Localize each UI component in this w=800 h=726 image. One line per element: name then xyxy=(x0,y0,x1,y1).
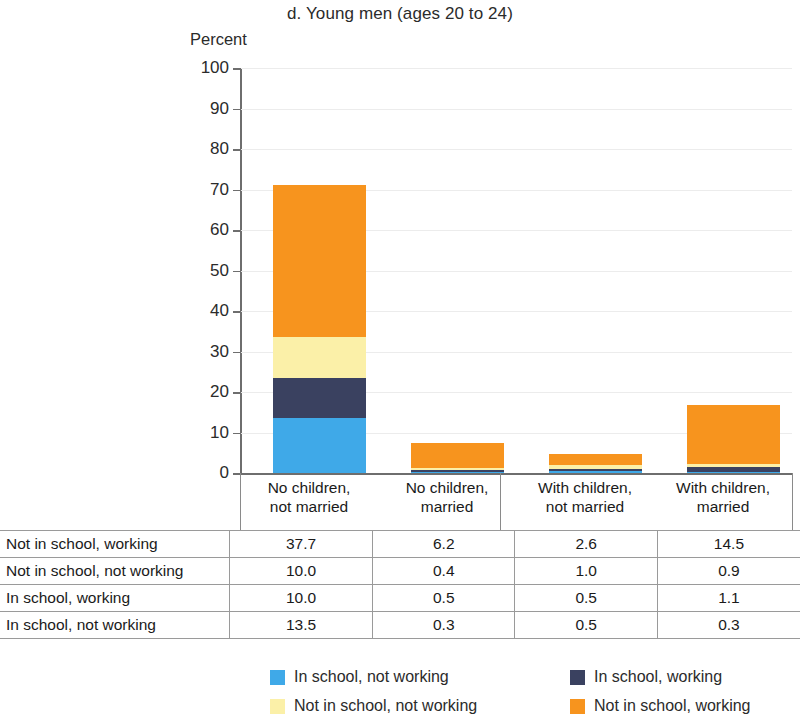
bar-stack[interactable] xyxy=(687,405,780,473)
gridline-90 xyxy=(240,109,792,110)
table-row-label: In school, working xyxy=(0,585,230,612)
y-tick-label: 0 xyxy=(220,463,229,483)
x-category-label-line: No children, xyxy=(378,478,516,497)
table-cell: 1.0 xyxy=(515,558,657,585)
bar-stack[interactable] xyxy=(273,185,366,473)
bar-segment[interactable] xyxy=(549,465,642,469)
y-tick-mark xyxy=(233,230,241,232)
table-row-label: Not in school, working xyxy=(0,531,230,558)
x-category-label: With children,married xyxy=(654,478,792,516)
x-category-label-line: married xyxy=(654,497,792,516)
table-cell: 0.4 xyxy=(373,558,515,585)
y-tick-mark xyxy=(233,433,241,435)
bar-segment[interactable] xyxy=(273,185,366,338)
bar-segment[interactable] xyxy=(687,472,780,473)
y-tick-label: 60 xyxy=(210,220,229,240)
legend-label: Not in school, not working xyxy=(294,697,477,715)
y-tick-label: 10 xyxy=(210,423,229,443)
x-category-label-line: No children, xyxy=(240,478,378,497)
legend-item[interactable]: In school, working xyxy=(570,668,722,686)
chart-figure: d. Young men (ages 20 to 24) Percent 010… xyxy=(0,0,800,726)
table-cell: 10.0 xyxy=(230,558,373,585)
y-tick-label: 30 xyxy=(210,342,229,362)
bar-segment[interactable] xyxy=(411,470,504,472)
x-category-label: No children,married xyxy=(378,478,516,516)
legend-label: In school, working xyxy=(594,668,722,686)
y-tick-label: 40 xyxy=(210,301,229,321)
x-axis-category-labels: No children,not marriedNo children,marri… xyxy=(240,478,792,530)
legend-swatch-icon xyxy=(570,670,585,685)
bar-segment[interactable] xyxy=(687,405,780,464)
table-row: Not in school, not working10.00.41.00.9 xyxy=(0,558,800,585)
plot-area: 0102030405060708090100 xyxy=(240,68,792,473)
category-separator xyxy=(792,473,793,530)
page-title: d. Young men (ages 20 to 24) xyxy=(0,4,800,24)
table-cell: 37.7 xyxy=(230,531,373,558)
y-axis-label: Percent xyxy=(190,30,247,49)
y-tick-mark xyxy=(233,68,241,70)
y-tick-mark xyxy=(233,392,241,394)
x-category-label-line: married xyxy=(378,497,516,516)
table-cell: 10.0 xyxy=(230,585,373,612)
bar-segment[interactable] xyxy=(687,464,780,468)
y-tick-label: 80 xyxy=(210,139,229,159)
x-category-label: With children,not married xyxy=(516,478,654,516)
legend-swatch-icon xyxy=(270,699,285,714)
bar-segment[interactable] xyxy=(273,418,366,473)
legend-swatch-icon xyxy=(270,670,285,685)
legend-item[interactable]: In school, not working xyxy=(270,668,449,686)
bar-segment[interactable] xyxy=(273,378,366,419)
table-row-label: Not in school, not working xyxy=(0,558,230,585)
legend-swatch-icon xyxy=(570,699,585,714)
table-row: In school, working10.00.50.51.1 xyxy=(0,585,800,612)
y-tick-mark xyxy=(233,352,241,354)
y-tick-mark xyxy=(233,271,241,273)
table-cell: 13.5 xyxy=(230,612,373,639)
bar-segment[interactable] xyxy=(411,443,504,468)
table-cell: 2.6 xyxy=(515,531,657,558)
table-cell: 6.2 xyxy=(373,531,515,558)
bar-segment[interactable] xyxy=(411,472,504,473)
y-tick-mark xyxy=(233,311,241,313)
chart-legend: In school, not workingIn school, working… xyxy=(240,668,792,726)
table-cell: 1.1 xyxy=(657,585,800,612)
table-cell: 0.3 xyxy=(373,612,515,639)
data-table: Not in school, working37.76.22.614.5Not … xyxy=(0,530,800,639)
table-cell: 0.5 xyxy=(515,612,657,639)
table-row: Not in school, working37.76.22.614.5 xyxy=(0,531,800,558)
table-cell: 0.3 xyxy=(657,612,800,639)
gridline-100 xyxy=(240,68,792,69)
bar-segment[interactable] xyxy=(273,337,366,378)
bar-segment[interactable] xyxy=(687,467,780,471)
y-tick-label: 100 xyxy=(201,58,229,78)
y-tick-label: 90 xyxy=(210,99,229,119)
y-tick-mark xyxy=(233,109,241,111)
table-cell: 0.5 xyxy=(373,585,515,612)
x-category-label-line: With children, xyxy=(516,478,654,497)
legend-item[interactable]: Not in school, not working xyxy=(270,697,477,715)
x-category-label: No children,not married xyxy=(240,478,378,516)
y-tick-mark xyxy=(233,190,241,192)
y-tick-label: 70 xyxy=(210,180,229,200)
legend-item[interactable]: Not in school, working xyxy=(570,697,751,715)
table-cell: 0.5 xyxy=(515,585,657,612)
bar-stack[interactable] xyxy=(411,443,504,473)
gridline-0 xyxy=(240,473,792,475)
bar-segment[interactable] xyxy=(549,469,642,471)
table-row-label: In school, not working xyxy=(0,612,230,639)
gridline-80 xyxy=(240,149,792,150)
x-category-label-line: not married xyxy=(240,497,378,516)
table-cell: 0.9 xyxy=(657,558,800,585)
x-category-label-line: not married xyxy=(516,497,654,516)
bar-segment[interactable] xyxy=(549,471,642,473)
data-table-body: Not in school, working37.76.22.614.5Not … xyxy=(0,531,800,639)
legend-label: Not in school, working xyxy=(594,697,751,715)
bar-segment[interactable] xyxy=(549,454,642,465)
x-category-label-line: With children, xyxy=(654,478,792,497)
bar-stack[interactable] xyxy=(549,454,642,473)
bar-segment[interactable] xyxy=(411,468,504,470)
table-cell: 14.5 xyxy=(657,531,800,558)
y-tick-label: 50 xyxy=(210,261,229,281)
y-tick-label: 20 xyxy=(210,382,229,402)
table-row: In school, not working13.50.30.50.3 xyxy=(0,612,800,639)
